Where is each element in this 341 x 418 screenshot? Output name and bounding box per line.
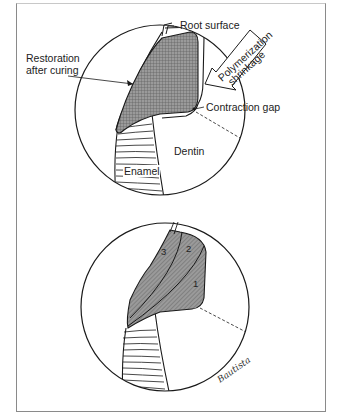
bottom-panel: 3 2 1 Bautista: [81, 222, 252, 396]
restoration-label-line1: Restoration: [26, 52, 80, 64]
dental-restoration-diagram: Polymerization shrinkage Root surface Re…: [0, 0, 341, 418]
increment-label-3: 3: [161, 246, 166, 257]
top-panel: Polymerization shrinkage Root surface Re…: [26, 19, 280, 198]
enamel-label: Enamel: [124, 165, 160, 177]
increment-label-2: 2: [186, 243, 191, 254]
root-surface-label: Root surface: [180, 19, 240, 31]
contraction-gap-label: Contraction gap: [206, 101, 280, 113]
restoration-leader-line: [68, 76, 133, 84]
polymerization-shrinkage-arrow: Polymerization shrinkage: [205, 28, 275, 90]
restoration-label-line2: after curing: [26, 64, 79, 76]
dentin-label: Dentin: [174, 145, 205, 157]
increment-label-1: 1: [193, 278, 198, 289]
